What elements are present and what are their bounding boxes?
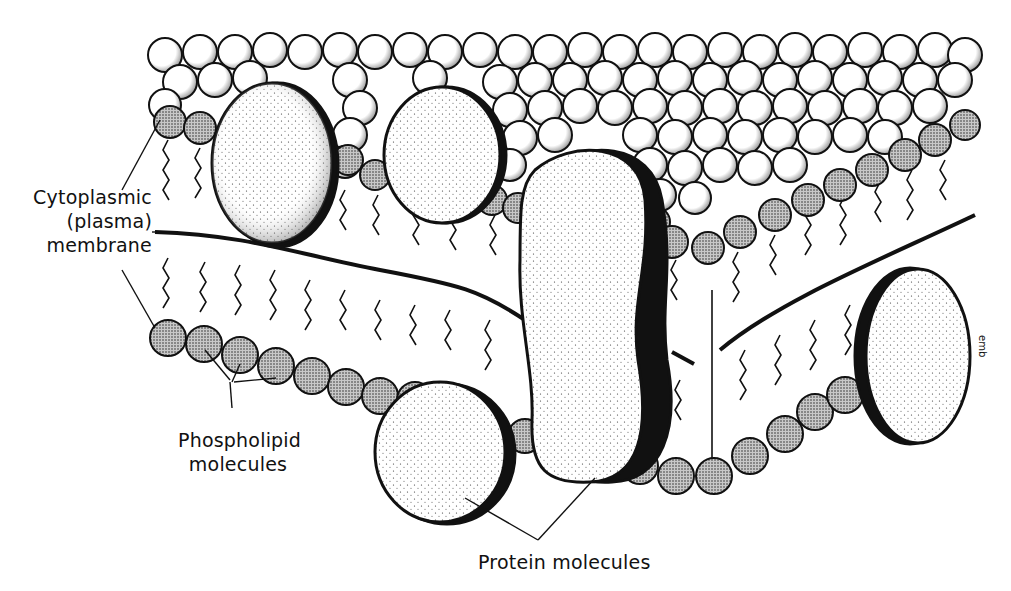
membrane-label-line2: (plasma) (22, 209, 152, 233)
membrane-label-line1: Cytoplasmic (22, 185, 152, 209)
protein-lower-left (375, 382, 515, 524)
artist-signature: emb (977, 335, 988, 357)
phospholipid-label-line1: Phospholipid (178, 428, 298, 452)
membrane-label: Cytoplasmic (plasma) membrane (22, 185, 152, 257)
protein-right (855, 268, 970, 444)
membrane-label-line3: membrane (22, 233, 152, 257)
membrane-illustration (0, 0, 1011, 591)
protein-upper-middle (384, 87, 506, 223)
protein-transmembrane (520, 150, 671, 482)
protein-upper-left (212, 83, 338, 247)
phospholipid-label-line2: molecules (178, 452, 298, 476)
protein-label: Protein molecules (478, 550, 651, 574)
phospholipid-label: Phospholipid molecules (178, 428, 298, 476)
